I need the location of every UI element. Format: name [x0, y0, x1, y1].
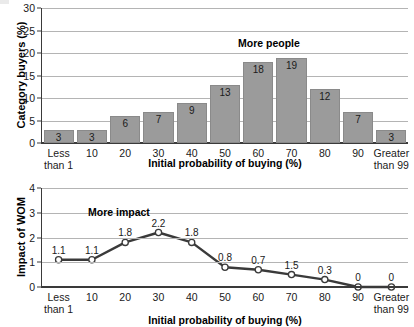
- x-tick-line2: than 99: [374, 159, 409, 171]
- y-axis-tick-label: 3: [29, 208, 35, 219]
- gridline: [42, 76, 408, 77]
- bar-chart: Category buyers (%) 336791318191273 More…: [0, 0, 414, 170]
- bar-value-label: 9: [177, 106, 207, 116]
- line-value-label: 1.8: [172, 228, 212, 238]
- x-tick-line2: than 99: [374, 303, 409, 315]
- y-axis-line: [41, 188, 42, 288]
- gridline: [42, 8, 408, 9]
- bar-value-label: 3: [77, 133, 107, 143]
- gridline: [42, 188, 408, 189]
- line-value-label: 0: [371, 273, 411, 283]
- y-axis-line: [41, 8, 42, 144]
- y-axis-tick-label: 5: [29, 115, 35, 126]
- line-data-point[interactable]: [189, 239, 195, 245]
- x-axis-line: [42, 286, 408, 288]
- bar-chart-annotation: More people: [238, 37, 300, 49]
- y-axis-tick-label: 4: [29, 183, 35, 194]
- line-value-label: 2.2: [138, 219, 178, 229]
- line-value-label: 1.8: [105, 228, 145, 238]
- bar-value-label: 12: [310, 92, 340, 102]
- x-axis-tick-label: Greaterthan 99: [361, 147, 414, 171]
- line-chart-y-axis-label: Impact of WOM: [14, 172, 26, 301]
- bar-value-label: 18: [243, 65, 273, 75]
- bar-value-label: 19: [276, 61, 306, 71]
- x-tick-line1: Greater: [374, 291, 410, 303]
- line-chart: Impact of WOM 1.11.11.82.21.80.80.71.50.…: [0, 183, 414, 327]
- figure-root: Category buyers (%) 336791318191273 More…: [0, 0, 414, 327]
- y-axis-tick-label: 1: [29, 257, 35, 268]
- y-axis-tick-label: 10: [23, 93, 35, 104]
- bar-value-label: 7: [343, 115, 373, 125]
- line-data-point[interactable]: [122, 239, 128, 245]
- gridline: [42, 53, 408, 54]
- gridline: [42, 238, 408, 239]
- x-tick-line2: than 1: [44, 303, 73, 315]
- y-axis-tick-label: 25: [23, 25, 35, 36]
- line-value-label: 1.1: [72, 246, 112, 256]
- bar-value-label: 3: [44, 133, 74, 143]
- line-data-point[interactable]: [155, 229, 161, 235]
- gridline: [42, 31, 408, 32]
- x-tick-line1: Greater: [374, 147, 410, 159]
- bar-value-label: 6: [110, 119, 140, 129]
- line-chart-x-axis-title: Initial probability of buying (%): [42, 314, 408, 326]
- line-data-point[interactable]: [222, 264, 228, 270]
- bar-value-label: 3: [376, 133, 406, 143]
- line-chart-plot-area: 1.11.11.82.21.80.80.71.50.300: [42, 188, 408, 287]
- line-data-point[interactable]: [255, 267, 261, 273]
- line-data-point[interactable]: [288, 272, 294, 278]
- y-axis-tick-label: 30: [23, 3, 35, 14]
- x-axis-tick-label: Greaterthan 99: [361, 291, 414, 315]
- bar-value-label: 7: [143, 115, 173, 125]
- y-axis-tick-label: 2: [29, 232, 35, 243]
- y-axis-tick-label: 20: [23, 48, 35, 59]
- bar-chart-plot-area: 336791318191273: [42, 8, 408, 143]
- x-tick-line2: than 1: [44, 159, 73, 171]
- line-data-point[interactable]: [322, 277, 328, 283]
- line-chart-annotation: More impact: [88, 206, 150, 218]
- y-axis-tick-label: 15: [23, 70, 35, 81]
- bar-value-label: 13: [210, 88, 240, 98]
